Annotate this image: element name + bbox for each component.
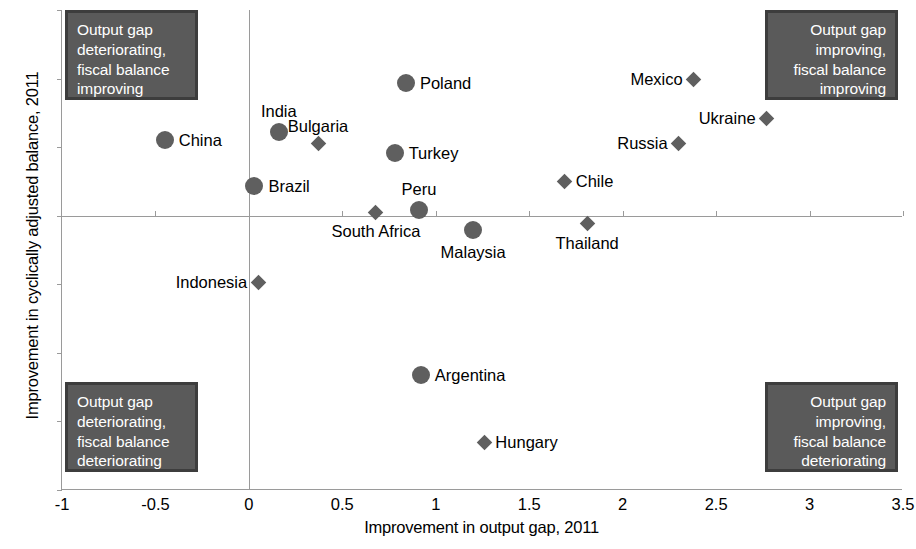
y-axis-tick: [57, 490, 62, 491]
annotation-line: fiscal balance: [77, 432, 186, 452]
data-point-marker[interactable]: [368, 205, 384, 221]
data-point-label: China: [179, 131, 222, 148]
x-axis-tick: [529, 211, 530, 216]
x-zero-axis-line: [62, 216, 902, 217]
data-point-label: Poland: [420, 74, 471, 91]
data-point-marker[interactable]: [245, 177, 263, 195]
annotation-line: improving: [777, 79, 886, 99]
x-axis-tick: [903, 211, 904, 216]
data-point-label: Malaysia: [441, 244, 506, 261]
data-point-label: Argentina: [435, 367, 506, 384]
y-axis-tick: [57, 216, 62, 217]
x-axis-tick: [810, 211, 811, 216]
data-point-label: South Africa: [331, 223, 420, 240]
x-axis-tick-label: 2: [593, 496, 653, 513]
data-point-marker[interactable]: [410, 201, 428, 219]
y-axis-tick: [57, 284, 62, 285]
y-axis-title: Improvement in cyclically adjusted balan…: [23, 11, 42, 481]
data-point-marker[interactable]: [686, 71, 702, 87]
x-axis-title: Improvement in output gap, 2011: [61, 518, 902, 537]
data-point-marker[interactable]: [477, 434, 493, 450]
x-axis-tick: [436, 211, 437, 216]
data-point-label: Mexico: [630, 71, 682, 88]
y-axis-tick: [57, 421, 62, 422]
data-point-marker[interactable]: [270, 123, 288, 141]
data-point-label: Ukraine: [699, 110, 756, 127]
annotation-line: Output gap: [77, 20, 186, 40]
x-axis-tick: [716, 211, 717, 216]
annotation-box-top-left: Output gap deteriorating, fiscal balance…: [65, 10, 198, 100]
annotation-line: deteriorating,: [77, 40, 186, 60]
data-point-label: Indonesia: [176, 274, 248, 291]
data-point-marker[interactable]: [310, 136, 326, 152]
x-axis-tick-label: 3: [780, 496, 840, 513]
x-axis-tick: [342, 211, 343, 216]
data-point-label: Chile: [576, 173, 614, 190]
x-axis-tick-label: -0.5: [125, 496, 185, 513]
y-axis-tick: [57, 79, 62, 80]
annotation-line: Output gap: [777, 392, 886, 412]
data-point-marker[interactable]: [579, 216, 595, 232]
annotation-line: fiscal balance: [777, 432, 886, 452]
y-axis-tick: [57, 10, 62, 11]
annotation-line: Output gap: [777, 20, 886, 40]
data-point-label: Brazil: [268, 177, 309, 194]
scatter-chart: Improvement in cyclically adjusted balan…: [0, 0, 916, 549]
annotation-line: deteriorating: [777, 451, 886, 471]
y-zero-axis-line: [249, 10, 250, 489]
x-axis-tick-label: 1.5: [499, 496, 559, 513]
annotation-line: fiscal balance: [777, 60, 886, 80]
data-point-label: Peru: [402, 180, 437, 197]
annotation-line: improving,: [777, 40, 886, 60]
data-point-label: Bulgaria: [288, 117, 349, 134]
y-axis-tick: [57, 353, 62, 354]
annotation-line: deteriorating: [77, 451, 186, 471]
data-point-label: Hungary: [495, 434, 557, 451]
annotation-box-bottom-left: Output gap deteriorating, fiscal balance…: [65, 382, 198, 472]
annotation-line: improving: [77, 79, 186, 99]
data-point-marker[interactable]: [397, 74, 415, 92]
data-point-marker[interactable]: [557, 174, 573, 190]
data-point-label: Thailand: [556, 235, 619, 252]
annotation-line: improving,: [777, 412, 886, 432]
x-axis-tick: [623, 211, 624, 216]
x-axis-tick-label: 3.5: [873, 496, 916, 513]
annotation-box-bottom-right: Output gap improving, fiscal balance det…: [765, 382, 898, 472]
data-point-marker[interactable]: [386, 144, 404, 162]
data-point-marker[interactable]: [156, 131, 174, 149]
x-axis-tick: [155, 211, 156, 216]
data-point-label: Russia: [617, 135, 667, 152]
data-point-label: Turkey: [409, 144, 459, 161]
annotation-line: Output gap: [77, 392, 186, 412]
y-axis-tick: [57, 147, 62, 148]
x-axis-tick-label: 0: [219, 496, 279, 513]
x-axis-tick-label: 1: [406, 496, 466, 513]
data-point-marker[interactable]: [250, 274, 266, 290]
data-point-marker[interactable]: [464, 221, 482, 239]
annotation-line: deteriorating,: [77, 412, 186, 432]
x-axis-tick-label: -1: [32, 496, 92, 513]
x-axis-tick-label: 0.5: [312, 496, 372, 513]
data-point-marker[interactable]: [671, 135, 687, 151]
annotation-line: fiscal balance: [77, 60, 186, 80]
data-point-marker[interactable]: [412, 366, 430, 384]
x-axis-tick-label: 2.5: [686, 496, 746, 513]
annotation-box-top-right: Output gap improving, fiscal balance imp…: [765, 10, 898, 100]
data-point-marker[interactable]: [759, 111, 775, 127]
